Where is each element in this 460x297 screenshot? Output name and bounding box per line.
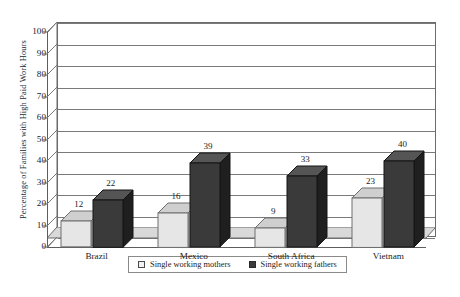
depth-connector bbox=[47, 44, 58, 55]
legend-item-mothers: Single working mothers bbox=[138, 260, 231, 269]
x-axis-category-label: South Africa bbox=[268, 251, 315, 261]
legend-swatch-icon bbox=[138, 261, 145, 268]
data-label: 40 bbox=[398, 140, 407, 149]
depth-connector bbox=[47, 216, 58, 227]
x-axis-category-label: Mexico bbox=[180, 251, 208, 261]
data-label: 22 bbox=[106, 179, 115, 188]
data-label: 9 bbox=[271, 207, 276, 216]
depth-connector bbox=[47, 173, 58, 184]
bar-mexico-series-2 bbox=[190, 153, 230, 247]
legend-swatch-icon bbox=[249, 261, 256, 268]
depth-connector bbox=[47, 22, 58, 33]
depth-connector bbox=[47, 194, 58, 205]
legend-label: Single working mothers bbox=[150, 260, 231, 269]
x-axis-category-label: Brazil bbox=[85, 251, 107, 261]
depth-connector bbox=[47, 151, 58, 162]
data-label: 39 bbox=[203, 142, 212, 151]
depth-connector bbox=[47, 130, 58, 141]
x-axis-category-label: Vietnam bbox=[373, 251, 404, 261]
legend-item-fathers: Single working fathers bbox=[249, 260, 337, 269]
depth-connector bbox=[47, 237, 58, 248]
depth-connector bbox=[47, 65, 58, 76]
data-label: 12 bbox=[74, 200, 83, 209]
depth-connector bbox=[47, 108, 58, 119]
bar-chart: Percentage of Families with High Paid Wo… bbox=[0, 0, 460, 297]
depth-connector bbox=[47, 87, 58, 98]
bar-south-africa-series-2 bbox=[287, 166, 327, 247]
bar-brazil-series-2 bbox=[93, 190, 133, 247]
bar-vietnam-series-2 bbox=[384, 151, 424, 247]
data-label: 33 bbox=[301, 155, 310, 164]
legend-label: Single working fathers bbox=[261, 260, 337, 269]
data-label: 23 bbox=[366, 177, 375, 186]
data-label: 16 bbox=[171, 192, 180, 201]
